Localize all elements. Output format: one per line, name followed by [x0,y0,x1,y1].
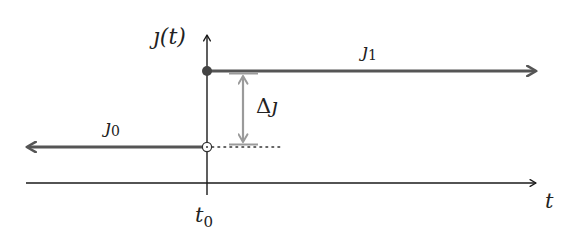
t0-label: t0 [195,203,213,231]
open-dot-center [206,146,208,148]
j0-label: 𝚥0 [101,115,120,139]
delta-label: Δ𝚥 [256,94,278,118]
y-axis-label: 𝚥(t) [149,24,186,49]
filled-dot [202,66,212,76]
step-diagram: 𝚥(t) t t0 𝚥0 𝚥1 Δ𝚥 [0,0,576,247]
j1-label: 𝚥1 [358,39,377,63]
x-axis-label: t [545,189,554,213]
